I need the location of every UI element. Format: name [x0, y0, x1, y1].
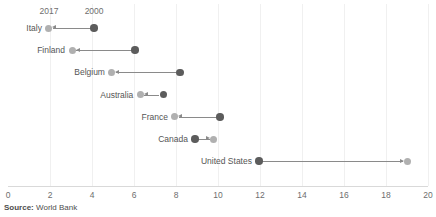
plot-area: 20172000 ItalyFinlandBelgiumAustraliaFra…	[0, 0, 436, 186]
connector-line	[53, 28, 90, 29]
chart-row: Italy	[0, 17, 436, 39]
source-value: World Bank	[36, 203, 77, 212]
series-annotation-2000: 2000	[74, 6, 114, 16]
row-label: France	[141, 106, 167, 128]
row-label: Finland	[37, 39, 65, 61]
dot-2000	[131, 46, 139, 54]
arrowhead-left	[178, 114, 182, 118]
row-label: United States	[201, 150, 252, 172]
dot-2000	[255, 157, 263, 165]
x-axis-line	[8, 186, 428, 187]
row-label: Canada	[158, 128, 188, 150]
connector-line	[179, 117, 216, 118]
x-tick-label: 2	[38, 190, 62, 201]
connector-line	[116, 72, 176, 73]
row-label: Belgium	[74, 61, 105, 83]
dot-2017	[171, 113, 178, 120]
x-tick-label: 16	[332, 190, 356, 201]
x-tick-label: 14	[290, 190, 314, 201]
chart-row: Canada	[0, 128, 436, 150]
dot-2017	[108, 69, 115, 76]
source-label: Source:	[4, 203, 34, 212]
arrowhead-left	[76, 48, 80, 52]
dot-2000	[90, 24, 98, 32]
dot-2017	[404, 158, 411, 165]
chart-row: France	[0, 106, 436, 128]
dot-2000	[216, 113, 224, 121]
arrowhead-right	[400, 159, 404, 163]
dot-2017	[45, 25, 52, 32]
dumbbell-chart: 20172000 ItalyFinlandBelgiumAustraliaFra…	[0, 0, 436, 217]
arrowhead-left	[115, 70, 119, 74]
series-annotation-2017: 2017	[29, 6, 69, 16]
chart-row: United States	[0, 150, 436, 172]
x-tick-label: 18	[374, 190, 398, 201]
x-tick-label: 10	[206, 190, 230, 201]
dot-2000	[160, 91, 168, 99]
source-note: Source: World Bank	[4, 203, 77, 212]
arrowhead-left	[52, 25, 56, 29]
connector-line	[76, 50, 131, 51]
connector-line	[263, 161, 403, 162]
chart-row: Belgium	[0, 61, 436, 83]
chart-row: Finland	[0, 39, 436, 61]
arrowhead-left	[144, 92, 148, 96]
x-tick-label: 4	[80, 190, 104, 201]
row-label: Italy	[26, 17, 42, 39]
x-tick-label: 20	[416, 190, 436, 201]
dot-2017	[137, 91, 144, 98]
row-label: Australia	[100, 84, 133, 106]
x-tick-label: 12	[248, 190, 272, 201]
x-tick-label: 0	[0, 190, 20, 201]
dot-2000	[176, 69, 184, 77]
x-tick-label: 8	[164, 190, 188, 201]
x-tick-label: 6	[122, 190, 146, 201]
dot-2017	[69, 47, 76, 54]
chart-row: Australia	[0, 84, 436, 106]
dot-2017	[210, 136, 217, 143]
dot-2000	[191, 135, 199, 143]
